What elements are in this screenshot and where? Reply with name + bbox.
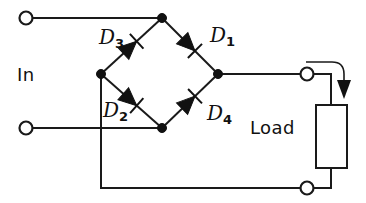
input-terminal-top[interactable]: [20, 12, 33, 25]
input-terminal-bottom[interactable]: [20, 122, 33, 135]
bridge-node-bottom: [158, 124, 167, 133]
diode-label-d2: D2: [103, 100, 128, 123]
bridge-node-top: [158, 14, 167, 23]
diode-label-d2-letter: D: [103, 98, 119, 122]
diode-label-d1-letter: D: [210, 23, 226, 47]
diode-label-d1-subscript: 1: [226, 34, 235, 49]
bridge-node-right: [214, 70, 223, 79]
output-terminal-bottom[interactable]: [301, 182, 314, 195]
diode-label-d4-subscript: 4: [223, 112, 232, 127]
bridge-rectifier-diagram: D3 D1 D2 D4 In Load: [0, 0, 366, 203]
diode-label-d3: D3: [99, 27, 124, 50]
diode-label-d2-subscript: 2: [119, 109, 128, 124]
input-label: In: [17, 66, 35, 84]
diode-label-d4: D4: [207, 103, 232, 126]
bridge-node-left: [97, 70, 106, 79]
current-direction-arrow-head: [337, 80, 351, 99]
output-terminal-top[interactable]: [301, 68, 314, 81]
diode-label-d3-subscript: 3: [115, 36, 124, 51]
wire-load-bottom: [313, 168, 331, 188]
diode-label-d4-letter: D: [207, 101, 223, 125]
load-label: Load: [250, 119, 295, 137]
wire-load-top: [313, 74, 331, 105]
circuit-schematic-canvas: [0, 0, 366, 203]
diode-label-d1: D1: [210, 25, 235, 48]
load-resistor: [316, 105, 347, 168]
diode-label-d3-letter: D: [99, 25, 115, 49]
